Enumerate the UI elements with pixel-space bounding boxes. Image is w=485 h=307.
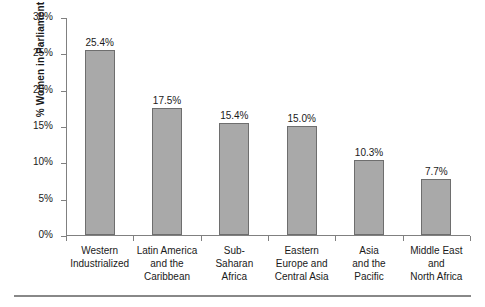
x-tick — [201, 236, 202, 241]
y-tick: 20% — [61, 91, 66, 92]
x-category-label: EasternEurope andCentral Asia — [268, 244, 335, 283]
y-tick-label: 10% — [33, 156, 53, 167]
y-axis-title: % Women in Parliament — [35, 0, 46, 160]
y-tick: 5% — [61, 200, 66, 201]
bar[interactable]: 10.3% — [354, 160, 384, 235]
y-tick: 25% — [61, 54, 66, 55]
y-tick-label: 20% — [33, 84, 53, 95]
x-tick — [66, 236, 67, 241]
x-category-label: Asiaand thePacific — [335, 244, 402, 283]
y-tick-label: 15% — [33, 120, 53, 131]
y-axis-line — [66, 18, 67, 237]
bar[interactable]: 7.7% — [421, 179, 451, 235]
x-category-label-line: North Africa — [403, 270, 470, 283]
x-category-label: Sub-SaharanAfrica — [201, 244, 268, 283]
bar-value-label: 25.4% — [85, 37, 113, 48]
bar-value-label: 15.4% — [220, 110, 248, 121]
y-tick: 10% — [61, 163, 66, 164]
x-category-label-line: Western — [66, 244, 133, 257]
y-tick-label: 30% — [33, 11, 53, 22]
x-category-label: Latin Americaand theCaribbean — [133, 244, 200, 283]
x-category-label-line: Africa — [201, 270, 268, 283]
bar[interactable]: 17.5% — [152, 108, 182, 235]
x-category-label-line: Industrialized — [66, 257, 133, 270]
bar-chart-figure: % Women in Parliament 0%5%10%15%20%25%30… — [0, 0, 485, 307]
x-tick — [470, 236, 471, 241]
bar[interactable]: 15.4% — [219, 123, 249, 235]
x-category-label-line: Latin America — [133, 244, 200, 257]
x-category-label-line: Saharan — [201, 257, 268, 270]
bar[interactable]: 25.4% — [85, 50, 115, 235]
x-tick — [403, 236, 404, 241]
bottom-divider — [14, 295, 471, 297]
bar[interactable]: 15.0% — [287, 126, 317, 235]
x-tick — [133, 236, 134, 241]
x-category-label-line: Asia — [335, 244, 402, 257]
x-tick — [268, 236, 269, 241]
x-category-label-line: Eastern — [268, 244, 335, 257]
bar-value-label: 10.3% — [355, 147, 383, 158]
bar-value-label: 7.7% — [425, 166, 448, 177]
x-category-label-line: Caribbean — [133, 270, 200, 283]
plot-area: 0%5%10%15%20%25%30% 25.4%17.5%15.4%15.0%… — [66, 18, 470, 236]
x-category-label-line: Middle East — [403, 244, 470, 257]
x-category-label-line: Sub- — [201, 244, 268, 257]
y-tick-label: 0% — [39, 229, 53, 240]
y-tick: 30% — [61, 18, 66, 19]
x-category-label-line: and the — [133, 257, 200, 270]
x-category-label-line: Central Asia — [268, 270, 335, 283]
x-category-label: Middle EastandNorth Africa — [403, 244, 470, 283]
y-tick-label: 5% — [39, 193, 53, 204]
x-category-label-line: and — [403, 257, 470, 270]
bar-value-label: 15.0% — [287, 113, 315, 124]
x-category-label: WesternIndustrialized — [66, 244, 133, 270]
x-category-label-line: Pacific — [335, 270, 402, 283]
y-tick: 15% — [61, 127, 66, 128]
x-category-label-line: and the — [335, 257, 402, 270]
y-tick-label: 25% — [33, 47, 53, 58]
bar-value-label: 17.5% — [153, 95, 181, 106]
x-tick — [335, 236, 336, 241]
x-category-label-line: Europe and — [268, 257, 335, 270]
